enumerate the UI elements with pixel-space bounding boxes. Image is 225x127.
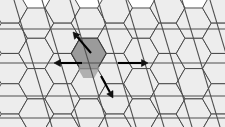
figure-container	[0, 0, 225, 127]
lattice-diagram	[0, 0, 225, 127]
